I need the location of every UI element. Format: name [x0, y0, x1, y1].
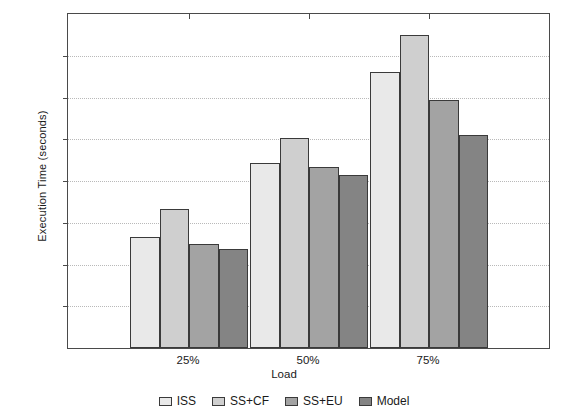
y-axis-tick-mark: [63, 265, 68, 266]
bar: [400, 35, 430, 348]
bar: [219, 249, 249, 348]
legend-label: SS+CF: [230, 394, 269, 408]
x-axis-tick-label: 25%: [148, 354, 228, 366]
bar: [250, 163, 280, 348]
x-axis-tick-mark: [429, 14, 430, 19]
y-axis-tick-mark: [63, 98, 68, 99]
y-axis-title: Execution Time (seconds): [36, 46, 48, 306]
legend-item: SS+EU: [285, 394, 343, 408]
x-axis-tick-mark: [189, 14, 190, 19]
bar: [309, 167, 339, 348]
x-axis-tick-label: 50%: [268, 354, 348, 366]
x-axis-tick-label: 75%: [388, 354, 468, 366]
bar: [160, 209, 190, 348]
legend-item: SS+CF: [212, 394, 269, 408]
legend-label: SS+EU: [303, 394, 343, 408]
legend-label: Model: [377, 394, 410, 408]
gridline: [68, 56, 549, 57]
legend-label: ISS: [177, 394, 196, 408]
chart-legend: ISSSS+CFSS+EUModel: [0, 394, 568, 408]
bar: [130, 237, 160, 348]
bar: [370, 72, 400, 348]
bar-chart-figure: Execution Time (seconds) 020406080100120…: [0, 0, 568, 418]
legend-swatch-icon: [359, 397, 372, 406]
plot-area: [67, 13, 550, 349]
bar: [459, 135, 489, 348]
x-axis-tick-mark: [309, 14, 310, 19]
y-axis-tick-mark: [63, 306, 68, 307]
y-axis-tick-mark: [63, 56, 68, 57]
x-axis-title: Load: [0, 368, 568, 380]
y-axis-tick-mark: [63, 223, 68, 224]
bar: [339, 175, 369, 348]
legend-swatch-icon: [159, 397, 172, 406]
bar: [189, 244, 219, 348]
bar: [280, 138, 310, 348]
legend-swatch-icon: [285, 397, 298, 406]
y-axis-tick-mark: [63, 181, 68, 182]
gridline: [68, 98, 549, 99]
legend-swatch-icon: [212, 397, 225, 406]
legend-item: Model: [359, 394, 410, 408]
bar: [429, 100, 459, 348]
legend-item: ISS: [159, 394, 196, 408]
y-axis-tick-mark: [63, 139, 68, 140]
